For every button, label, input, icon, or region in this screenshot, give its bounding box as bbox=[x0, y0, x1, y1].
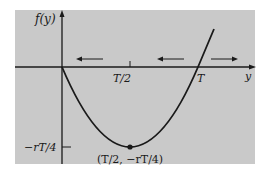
parabola-curve bbox=[62, 29, 214, 147]
x-axis-arrow-icon bbox=[249, 65, 256, 70]
arrow-left-icon bbox=[157, 57, 163, 62]
phase-plot: f(y) T/2 T y −rT/4 (T/2, −rT/4) bbox=[0, 0, 267, 179]
tick-label-min: −rT/4 bbox=[24, 141, 57, 154]
vertex-label: (T/2, −rT/4) bbox=[97, 153, 163, 166]
tick-label-T: T bbox=[197, 72, 206, 85]
vertex-point bbox=[127, 144, 132, 149]
y-axis-arrow-icon bbox=[60, 10, 65, 17]
arrow-right-icon bbox=[232, 57, 238, 62]
arrow-left-icon bbox=[76, 57, 82, 62]
tick-label-half-T: T/2 bbox=[113, 72, 131, 85]
y-axis-label: f(y) bbox=[34, 12, 56, 26]
x-axis-label: y bbox=[244, 70, 252, 83]
